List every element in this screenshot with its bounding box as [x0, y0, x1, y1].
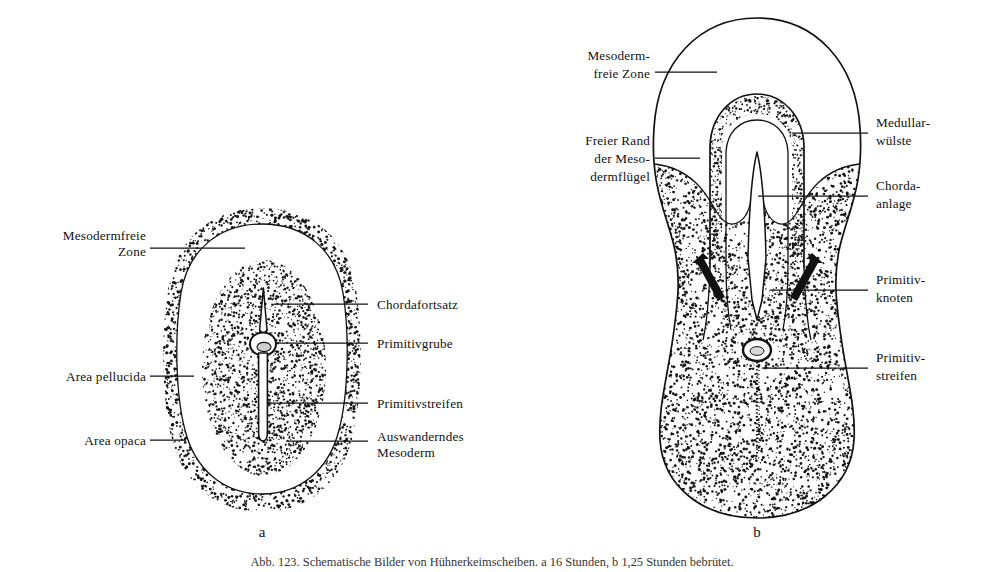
figure-root: Mesodermfreie Zone Area pellucida Area o… [0, 0, 984, 572]
label-b-freier-rand-line3: dermflügel [590, 169, 650, 184]
label-a-primitivgrube: Primitivgrube [377, 336, 453, 351]
primitivgrube-a [257, 342, 271, 351]
label-b-primitivstreifen-line2: streifen [876, 368, 917, 383]
label-a-area-opaca: Area opaca [84, 433, 146, 448]
panel-b: Mesoderm- freie Zone Freier Rand der Mes… [585, 18, 930, 540]
label-a-primitivstreifen: Primitivstreifen [377, 396, 463, 411]
label-a-area-pellucida: Area pellucida [66, 369, 146, 384]
label-b-medullarwuelste-line1: Medullar- [876, 115, 930, 130]
panel-a: Mesodermfreie Zone Area pellucida Area o… [63, 195, 464, 540]
figure-caption: Abb. 123. Schematische Bilder von Hühner… [250, 555, 733, 569]
label-b-medullarwuelste-line2: wülste [876, 133, 912, 148]
primitivgrube-b [750, 347, 764, 356]
label-b-freier-rand-line1: Freier Rand [585, 133, 650, 148]
panel-letter-a: a [259, 524, 266, 540]
label-b-chordaanlage-line1: Chorda- [876, 178, 921, 193]
label-b-chordaanlage-line2: anlage [876, 196, 912, 211]
label-b-primitivknoten-line2: knoten [876, 290, 913, 305]
label-b-primitivknoten-line1: Primitiv- [876, 272, 925, 287]
label-a-mesodermfreie-zone-line2: Zone [118, 244, 146, 259]
panel-letter-b: b [753, 524, 761, 540]
label-b-mesodermfreie-zone-line2: freie Zone [593, 66, 650, 81]
label-a-chordafortsatz: Chordafortsatz [377, 297, 458, 312]
primitivstreifen-a [259, 353, 268, 441]
label-a-mesodermfreie-zone-line1: Mesodermfreie [63, 228, 146, 243]
label-a-auswanderndes-mesoderm-line1: Auswanderndes [377, 429, 464, 444]
label-b-primitivstreifen-line1: Primitiv- [876, 350, 925, 365]
migration-arrow-right-b [790, 253, 823, 301]
label-b-mesodermfreie-zone-line1: Mesoderm- [587, 48, 650, 63]
label-a-auswanderndes-mesoderm-line2: Mesoderm [377, 445, 436, 460]
label-b-freier-rand-line2: der Meso- [594, 151, 650, 166]
embryology-diagram: Mesodermfreie Zone Area pellucida Area o… [0, 0, 984, 572]
